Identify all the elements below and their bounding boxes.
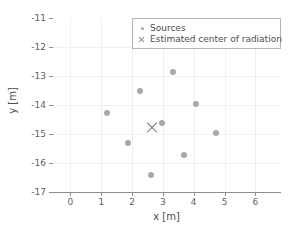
y-axis-label: y [m] [7, 71, 18, 131]
source-point-marker [159, 120, 165, 126]
source-point-marker [104, 110, 110, 116]
legend-circle-marker-icon [136, 23, 150, 33]
y-axis-tick [49, 163, 53, 164]
x-axis-tick-label: 5 [210, 197, 240, 208]
y-axis-tick-label: -12 [16, 42, 46, 52]
x-axis-tick [225, 193, 226, 196]
y-axis-tick-label: -15 [16, 129, 46, 139]
gridline-horizontal [52, 134, 280, 135]
gridline-horizontal [52, 76, 280, 77]
source-point-marker [148, 172, 154, 178]
x-axis-tick-label: 2 [117, 197, 147, 208]
x-axis-tick [70, 193, 71, 196]
legend-item-sources: Sources [136, 23, 276, 33]
source-point-marker [137, 88, 143, 94]
estimated-center-marker [145, 121, 159, 135]
legend-label-estimated-center: Estimated center of radiation [150, 34, 282, 44]
y-axis-tick [49, 192, 53, 193]
source-point-marker [125, 140, 131, 146]
legend-x-marker-icon [136, 34, 150, 44]
x-axis-tick [132, 193, 133, 196]
legend: Sources Estimated center of radiation [132, 18, 281, 49]
y-axis-tick-label: -16 [16, 158, 46, 168]
gridline-horizontal [52, 163, 280, 164]
y-axis-tick [49, 18, 53, 19]
scatter-plot-figure: 0123456-11-12-13-14-15-16-17 x [m] y [m]… [0, 0, 288, 237]
y-axis-tick-label: -13 [16, 71, 46, 81]
x-axis-spine [52, 192, 281, 193]
y-axis-tick-label: -17 [16, 187, 46, 197]
x-axis-tick-label: 1 [86, 197, 116, 208]
legend-label-sources: Sources [150, 23, 186, 33]
source-point-marker [170, 69, 176, 75]
y-axis-tick-label: -11 [16, 13, 46, 23]
legend-item-estimated-center: Estimated center of radiation [136, 34, 276, 44]
x-axis-label: x [m] [52, 211, 281, 222]
x-axis-tick-label: 3 [148, 197, 178, 208]
x-axis-tick [163, 193, 164, 196]
source-point-marker [213, 130, 219, 136]
source-point-marker [181, 152, 187, 158]
y-axis-tick [49, 134, 53, 135]
x-axis-tick-label: 0 [55, 197, 85, 208]
gridline-horizontal [52, 105, 280, 106]
y-axis-tick-label: -14 [16, 100, 46, 110]
x-axis-tick [255, 193, 256, 196]
y-axis-tick [49, 105, 53, 106]
x-axis-tick [194, 193, 195, 196]
x-axis-tick-label: 4 [179, 197, 209, 208]
y-axis-tick [49, 47, 53, 48]
x-axis-tick-label: 6 [240, 197, 270, 208]
source-point-marker [193, 101, 199, 107]
x-axis-tick [101, 193, 102, 196]
y-axis-tick [49, 76, 53, 77]
